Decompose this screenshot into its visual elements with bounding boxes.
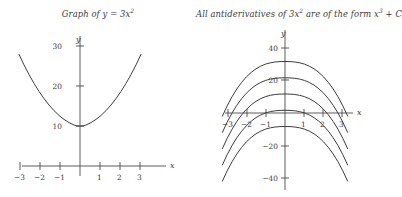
y-axis-label: y [75,35,81,44]
y-tick-label: 20 [53,82,63,91]
y-axis-label: y [280,29,286,38]
x-tick-label: 3 [339,120,344,129]
y-tick-label: 40 [269,44,279,53]
x-tick-label: −2 [241,120,252,129]
plot-parabola: x y −3 −2 −1 1 2 3 [0,0,196,197]
x-axis-label: x [170,161,175,170]
parabola-svg: x y −3 −2 −1 1 2 3 [0,0,196,197]
plot-antiderivatives: x y −3 −2 −1 1 2 3 [196,0,392,197]
x-tick-label: −2 [34,173,45,182]
x-tick-label: 1 [301,120,306,129]
panel-parabola: Graph of y = 3x2 x y [0,0,196,197]
x-tick-label: −3 [14,173,25,182]
y-tick-label: −40 [262,174,278,183]
x-tick-label: 3 [137,173,142,182]
y-tick-label: 20 [269,76,279,85]
x-tick-label: −1 [54,173,65,182]
x-tick-labels: −3 −2 −1 1 2 3 [14,173,142,182]
y-tick-label: −20 [262,142,278,151]
panel-antiderivatives: All antiderivatives of 3x2 are of the fo… [196,0,392,197]
y-tick-label: 10 [53,122,63,131]
y-tick-label: 30 [53,42,63,51]
x-tick-label: 2 [117,173,122,182]
x-tick-label: 1 [97,173,102,182]
antiderivatives-svg: x y −3 −2 −1 1 2 3 [196,0,392,197]
y-tick-labels: 10 20 30 [53,42,63,131]
x-axis-label: x [357,108,362,117]
